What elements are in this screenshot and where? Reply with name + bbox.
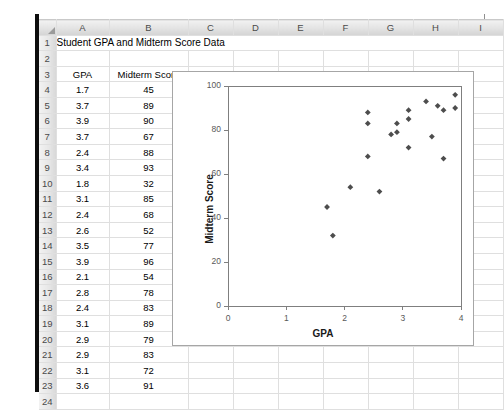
row-header-18[interactable]: 18 xyxy=(39,300,56,316)
cell-A2[interactable] xyxy=(56,51,109,67)
cell-a19-gpa[interactable]: 3.1 xyxy=(56,316,109,332)
cell-F2[interactable] xyxy=(323,51,368,67)
cell-C22[interactable] xyxy=(188,363,233,379)
cell-D21[interactable] xyxy=(233,347,278,363)
row-header-16[interactable]: 16 xyxy=(39,269,56,285)
cell-b21-score[interactable]: 83 xyxy=(109,347,188,363)
column-header-d[interactable]: D xyxy=(233,20,278,36)
column-header-f[interactable]: F xyxy=(323,20,368,36)
column-header-b[interactable]: B xyxy=(109,20,188,36)
cell-a7-gpa[interactable]: 3.7 xyxy=(56,129,109,145)
cell-a18-gpa[interactable]: 2.4 xyxy=(56,300,109,316)
column-header-i[interactable]: I xyxy=(458,20,503,36)
cell-a14-gpa[interactable]: 3.5 xyxy=(56,238,109,254)
cell-a20-gpa[interactable]: 2.9 xyxy=(56,331,109,347)
cell-C24[interactable] xyxy=(188,394,233,410)
cell-C21[interactable] xyxy=(188,347,233,363)
row-header-7[interactable]: 7 xyxy=(39,129,56,145)
cell-F21[interactable] xyxy=(323,347,368,363)
cell-a22-gpa[interactable]: 3.1 xyxy=(56,363,109,379)
cell-B2[interactable] xyxy=(109,51,188,67)
row-header-12[interactable]: 12 xyxy=(39,207,56,223)
row-header-14[interactable]: 14 xyxy=(39,238,56,254)
row-header-6[interactable]: 6 xyxy=(39,113,56,129)
cell-a13-gpa[interactable]: 2.6 xyxy=(56,222,109,238)
cell-A24[interactable] xyxy=(56,394,109,410)
row-header-4[interactable]: 4 xyxy=(39,82,56,98)
cell-B24[interactable] xyxy=(109,394,188,410)
cell-a15-gpa[interactable]: 3.9 xyxy=(56,253,109,269)
embedded-scatter-chart[interactable]: Midterm Score GPA 02040608010001234 xyxy=(172,71,474,346)
cell-a17-gpa[interactable]: 2.8 xyxy=(56,285,109,301)
cell-H21[interactable] xyxy=(413,347,458,363)
column-header-g[interactable]: G xyxy=(368,20,413,36)
cell-a10-gpa[interactable]: 1.8 xyxy=(56,175,109,191)
row-header-11[interactable]: 11 xyxy=(39,191,56,207)
table-row[interactable]: 2 xyxy=(39,51,503,67)
cell-I24[interactable] xyxy=(458,394,503,410)
cell-E23[interactable] xyxy=(278,378,323,394)
row-header-19[interactable]: 19 xyxy=(39,316,56,332)
cell-I22[interactable] xyxy=(458,363,503,379)
cell-I21[interactable] xyxy=(458,347,503,363)
table-row[interactable]: 212.983 xyxy=(39,347,503,363)
row-header-20[interactable]: 20 xyxy=(39,331,56,347)
cell-a9-gpa[interactable]: 3.4 xyxy=(56,160,109,176)
cell-a12-gpa[interactable]: 2.4 xyxy=(56,207,109,223)
cell-a3-gpa-header[interactable]: GPA xyxy=(56,66,109,82)
cell-C23[interactable] xyxy=(188,378,233,394)
cell-E2[interactable] xyxy=(278,51,323,67)
cell-G21[interactable] xyxy=(368,347,413,363)
cell-b22-score[interactable]: 72 xyxy=(109,363,188,379)
cell-a11-gpa[interactable]: 3.1 xyxy=(56,191,109,207)
cell-I2[interactable] xyxy=(458,51,503,67)
row-header-2[interactable]: 2 xyxy=(39,51,56,67)
row-header-9[interactable]: 9 xyxy=(39,160,56,176)
row-header-21[interactable]: 21 xyxy=(39,347,56,363)
cell-H24[interactable] xyxy=(413,394,458,410)
column-header-a[interactable]: A xyxy=(56,20,109,36)
cell-a8-gpa[interactable]: 2.4 xyxy=(56,144,109,160)
cell-E22[interactable] xyxy=(278,363,323,379)
cell-a1-sheet-title[interactable]: Student GPA and Midterm Score Data xyxy=(56,35,503,51)
column-header-e[interactable]: E xyxy=(278,20,323,36)
row-header-23[interactable]: 23 xyxy=(39,378,56,394)
cell-E21[interactable] xyxy=(278,347,323,363)
row-header-5[interactable]: 5 xyxy=(39,97,56,113)
cell-G24[interactable] xyxy=(368,394,413,410)
row-header-24[interactable]: 24 xyxy=(39,394,56,410)
cell-I23[interactable] xyxy=(458,378,503,394)
cell-F22[interactable] xyxy=(323,363,368,379)
cell-C2[interactable] xyxy=(188,51,233,67)
cell-a21-gpa[interactable]: 2.9 xyxy=(56,347,109,363)
table-row[interactable]: 1Student GPA and Midterm Score Data xyxy=(39,35,503,51)
row-header-17[interactable]: 17 xyxy=(39,285,56,301)
row-header-22[interactable]: 22 xyxy=(39,363,56,379)
table-row[interactable]: 233.691 xyxy=(39,378,503,394)
cell-a23-gpa[interactable]: 3.6 xyxy=(56,378,109,394)
cell-D24[interactable] xyxy=(233,394,278,410)
column-header-c[interactable]: C xyxy=(188,20,233,36)
row-header-13[interactable]: 13 xyxy=(39,222,56,238)
column-header-h[interactable]: H xyxy=(413,20,458,36)
cell-D2[interactable] xyxy=(233,51,278,67)
cell-a4-gpa[interactable]: 1.7 xyxy=(56,82,109,98)
table-row[interactable]: 223.172 xyxy=(39,363,503,379)
cell-H23[interactable] xyxy=(413,378,458,394)
cell-D23[interactable] xyxy=(233,378,278,394)
row-header-8[interactable]: 8 xyxy=(39,144,56,160)
cell-F23[interactable] xyxy=(323,378,368,394)
cell-G22[interactable] xyxy=(368,363,413,379)
cell-H22[interactable] xyxy=(413,363,458,379)
cell-H2[interactable] xyxy=(413,51,458,67)
cell-a6-gpa[interactable]: 3.9 xyxy=(56,113,109,129)
row-header-1[interactable]: 1 xyxy=(39,35,56,51)
cell-G23[interactable] xyxy=(368,378,413,394)
cell-E24[interactable] xyxy=(278,394,323,410)
row-header-15[interactable]: 15 xyxy=(39,253,56,269)
cell-a5-gpa[interactable]: 3.7 xyxy=(56,97,109,113)
select-all-corner[interactable] xyxy=(39,20,56,36)
cell-F24[interactable] xyxy=(323,394,368,410)
cell-b23-score[interactable]: 91 xyxy=(109,378,188,394)
cell-a16-gpa[interactable]: 2.1 xyxy=(56,269,109,285)
